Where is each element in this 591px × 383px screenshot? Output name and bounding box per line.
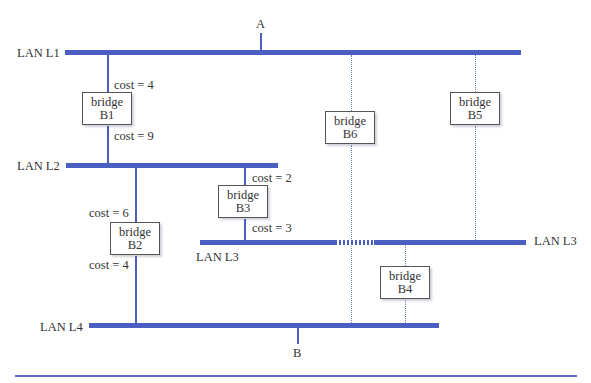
b1-cost-down: cost = 9: [114, 129, 154, 143]
bridge-b6-word: bridge: [334, 115, 366, 128]
bridge-b1: bridge B1: [82, 92, 132, 125]
b3-cost-down: cost = 3: [252, 221, 292, 235]
bridge-b5-id: B5: [468, 109, 483, 122]
lan-l2-label: LAN L2: [17, 159, 60, 173]
bridge-b1-id: B1: [100, 109, 115, 122]
bridge-b4-id: B4: [398, 283, 413, 296]
bridge-b2-id: B2: [128, 239, 143, 252]
bottom-divider: [15, 375, 577, 377]
endpoint-a-label: A: [256, 17, 265, 31]
bridge-b6: bridge B6: [325, 111, 375, 144]
bridged-lan-diagram: A LAN L1 cost = 4 bridge B1 cost = 9 bri…: [0, 0, 591, 383]
b3-cost-up: cost = 2: [252, 171, 292, 185]
b4-link-up: [405, 245, 406, 266]
bridge-b5-word: bridge: [459, 96, 491, 109]
endpoint-b-connector: [297, 328, 299, 344]
lan-l3-label-right: LAN L3: [534, 234, 577, 248]
lan-l4-segment: [89, 323, 439, 328]
b5-link-down: [475, 126, 476, 240]
bridge-b3: bridge B3: [218, 185, 268, 218]
b2-link-up: [135, 168, 137, 222]
bridge-b1-word: bridge: [91, 96, 123, 109]
b1-cost-up: cost = 4: [114, 78, 154, 92]
endpoint-a-connector: [260, 33, 262, 51]
b3-link-up: [244, 168, 246, 185]
bridge-b3-id: B3: [236, 202, 251, 215]
bridge-b3-word: bridge: [227, 189, 259, 202]
b4-link-down: [405, 300, 406, 323]
endpoint-b-label: B: [293, 346, 301, 360]
bridge-b4-word: bridge: [389, 270, 421, 283]
b1-link-up: [107, 55, 109, 92]
b1-link-down: [107, 126, 109, 163]
b5-link-up: [475, 55, 476, 92]
b6-link-up: [351, 55, 352, 111]
bridge-b4: bridge B4: [380, 266, 430, 299]
b6-link-down: [351, 145, 352, 323]
b3-link-down: [244, 219, 246, 240]
lan-l3-segment-gap: [335, 240, 374, 245]
b2-cost-up: cost = 6: [89, 206, 129, 220]
lan-l3-segment-right: [374, 240, 526, 245]
lan-l2-segment: [66, 163, 278, 168]
b2-link-down: [135, 256, 137, 323]
lan-l4-label: LAN L4: [40, 320, 83, 334]
lan-l3-label-left: LAN L3: [196, 250, 239, 264]
bridge-b6-id: B6: [343, 128, 358, 141]
b2-cost-down: cost = 4: [89, 258, 129, 272]
bridge-b5: bridge B5: [450, 92, 500, 125]
lan-l1-label: LAN L1: [17, 46, 60, 60]
bridge-b2-word: bridge: [119, 226, 151, 239]
lan-l3-segment-left: [200, 240, 335, 245]
lan-l1-segment: [65, 50, 521, 55]
bridge-b2: bridge B2: [110, 222, 160, 255]
